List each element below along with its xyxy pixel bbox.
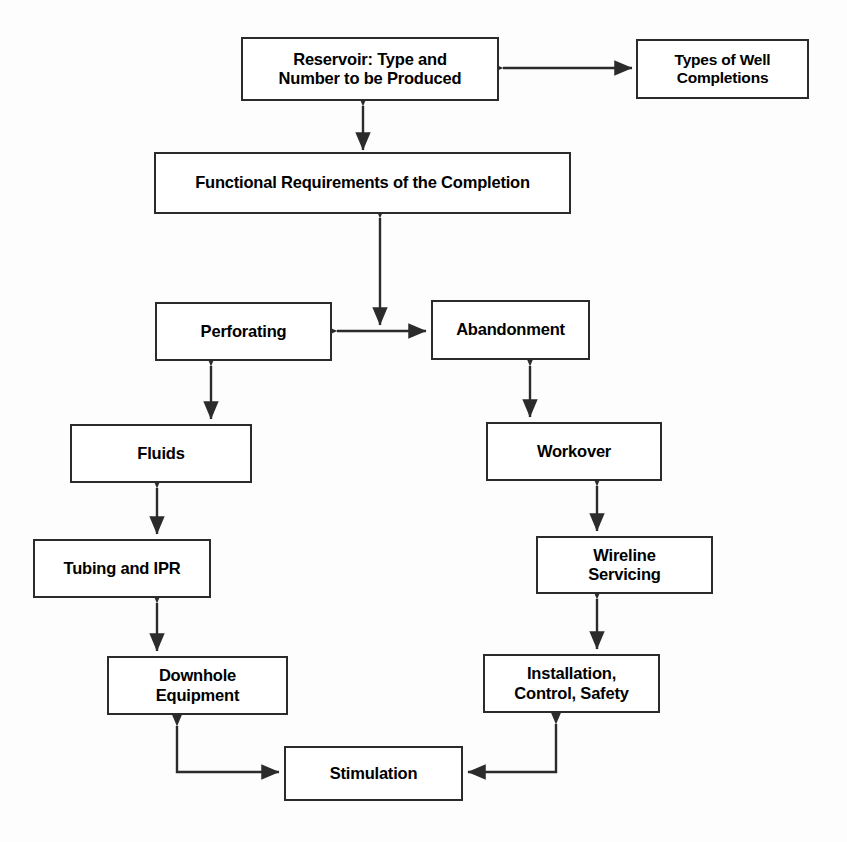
- node-downhole-equipment-line1: Downhole: [152, 666, 243, 685]
- node-tubing-ipr[interactable]: Tubing and IPR: [33, 539, 211, 598]
- node-downhole-equipment[interactable]: Downhole Equipment: [107, 656, 288, 715]
- node-stimulation[interactable]: Stimulation: [284, 746, 463, 801]
- node-perforating[interactable]: Perforating: [155, 302, 332, 361]
- node-installation-control-safety[interactable]: Installation, Control, Safety: [483, 654, 660, 713]
- node-well-types[interactable]: Types of Well Completions: [636, 39, 809, 99]
- node-wireline-servicing[interactable]: Wireline Servicing: [536, 536, 713, 594]
- node-installation-control-safety-line2: Control, Safety: [510, 684, 632, 703]
- connector-layer: [0, 0, 847, 842]
- node-perforating-label: Perforating: [197, 322, 291, 341]
- node-reservoir[interactable]: Reservoir: Type and Number to be Produce…: [241, 37, 499, 101]
- node-functional-requirements[interactable]: Functional Requirements of the Completio…: [154, 152, 571, 214]
- node-reservoir-line2: Number to be Produced: [275, 69, 466, 88]
- node-workover-label: Workover: [533, 442, 615, 461]
- flowchart-canvas: Reservoir: Type and Number to be Produce…: [0, 0, 847, 842]
- node-wireline-servicing-line2: Servicing: [584, 565, 664, 584]
- node-reservoir-line1: Reservoir: Type and: [275, 50, 466, 69]
- node-functional-requirements-label: Functional Requirements of the Completio…: [191, 173, 534, 192]
- node-fluids[interactable]: Fluids: [70, 424, 252, 483]
- connector-installation-stimulation: [468, 724, 556, 772]
- node-wireline-servicing-line1: Wireline: [584, 546, 664, 565]
- node-tubing-ipr-label: Tubing and IPR: [60, 559, 185, 578]
- node-installation-control-safety-line1: Installation,: [510, 664, 632, 683]
- node-well-types-line1: Types of Well: [671, 51, 775, 69]
- node-downhole-equipment-line2: Equipment: [152, 686, 243, 705]
- node-well-types-line2: Completions: [671, 69, 775, 87]
- node-abandonment-label: Abandonment: [452, 320, 569, 339]
- node-workover[interactable]: Workover: [486, 422, 662, 481]
- node-abandonment[interactable]: Abandonment: [431, 300, 590, 360]
- node-fluids-label: Fluids: [133, 444, 188, 463]
- node-stimulation-label: Stimulation: [326, 764, 422, 783]
- connector-downhole-stimulation: [177, 726, 279, 772]
